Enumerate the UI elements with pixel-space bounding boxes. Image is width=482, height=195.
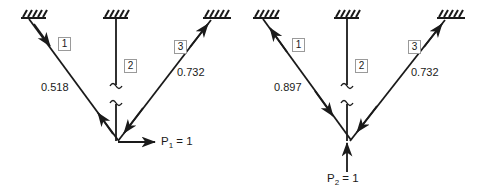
truss-panel-left: 1 2 3 0.518 0.732 P1 = 1	[0, 0, 241, 195]
member-force-3: 0.732	[411, 66, 439, 78]
member-1-right	[263, 19, 351, 140]
member-number-2: 2	[124, 59, 137, 73]
support-left	[21, 10, 47, 18]
load-label-p1: P1 = 1	[161, 135, 193, 150]
support-right	[203, 10, 231, 18]
member-1-left	[29, 19, 118, 140]
support-left	[253, 10, 279, 18]
member-number-1: 1	[58, 37, 71, 51]
load-equals: = 1	[173, 135, 193, 147]
load-symbol: P	[161, 135, 169, 147]
truss-figure: 1 2 3 0.518 0.732 P1 = 1	[0, 0, 482, 195]
member-number-3: 3	[408, 40, 421, 54]
member-number-1: 1	[292, 38, 305, 52]
truss-diagram-right-svg	[241, 0, 482, 195]
member-number-2: 2	[355, 59, 368, 73]
member-2-left	[110, 19, 122, 141]
member-force-3: 0.732	[177, 66, 205, 78]
member-force-1: 0.897	[274, 81, 302, 93]
load-equals: = 1	[339, 172, 359, 184]
member-3-left	[118, 20, 211, 141]
support-right	[437, 10, 465, 18]
support-middle	[334, 10, 360, 18]
member-number-3: 3	[174, 40, 187, 54]
member-2-right	[341, 19, 353, 141]
load-label-p2: P2 = 1	[327, 172, 359, 187]
truss-diagram-left-svg	[0, 0, 241, 195]
member-force-1: 0.518	[41, 81, 69, 93]
support-middle	[103, 10, 129, 18]
truss-panel-right: 1 2 3 0.897 0.732 P2 = 1	[241, 0, 482, 195]
member-3-right	[350, 20, 445, 141]
load-symbol: P	[327, 172, 335, 184]
